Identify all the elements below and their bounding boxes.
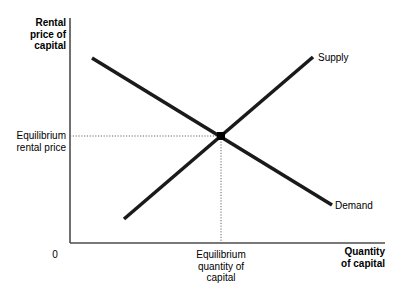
capital-market-equilibrium-diagram: Rental price of capital Equilibrium rent…	[0, 0, 393, 297]
demand-curve-label: Demand	[335, 200, 393, 212]
demand-curve	[92, 58, 332, 205]
supply-curve-label: Supply	[318, 52, 382, 64]
y-axis-title: Rental price of capital	[0, 17, 66, 52]
equilibrium-quantity-label: Equilibrium quantity of capital	[166, 249, 276, 284]
origin-label: 0	[46, 249, 64, 261]
equilibrium-rental-price-label: Equilibrium rental price	[0, 130, 66, 153]
x-axis-title: Quantity of capital	[283, 246, 385, 269]
equilibrium-point-marker	[217, 132, 225, 140]
